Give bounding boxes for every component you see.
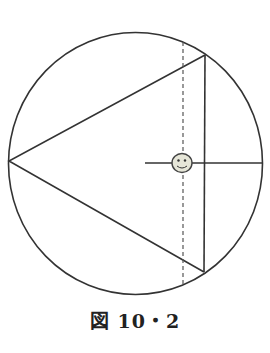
figure-caption: 図 10・2 <box>0 306 270 333</box>
diagram-canvas <box>0 0 270 353</box>
smiley-icon <box>172 154 192 173</box>
